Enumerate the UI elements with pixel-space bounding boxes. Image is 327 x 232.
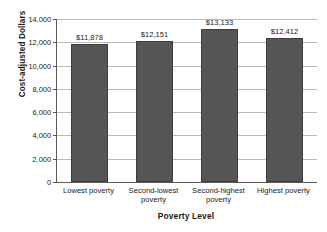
y-axis-tick-label: 12,000 — [28, 38, 51, 47]
x-axis-category-label: Second-lowest poverty — [121, 186, 186, 205]
bar-chart: Cost-adjusted Dollars 02,0004,0006,0008,… — [0, 0, 327, 232]
bar[interactable] — [266, 38, 302, 183]
y-axis-tick-label: 4,000 — [33, 131, 52, 140]
plot-area: 02,0004,0006,0008,00010,00012,00014,000 … — [56, 19, 317, 183]
y-axis-tick-label: 14,000 — [28, 15, 51, 24]
y-axis-tick-label: 2,000 — [33, 154, 52, 163]
bar[interactable] — [136, 41, 172, 182]
x-axis-category-label: Highest poverty — [251, 186, 316, 195]
bar-slot: $12,412 — [252, 19, 317, 182]
y-axis-tick-label: 6,000 — [33, 108, 52, 117]
x-axis-category-label: Second-highest poverty — [186, 186, 251, 205]
bar[interactable] — [71, 44, 107, 182]
y-axis-tick-label: 10,000 — [28, 61, 51, 70]
bar-value-label: $12,151 — [122, 30, 187, 39]
x-axis-tick-labels: Lowest povertySecond-lowest povertySecon… — [56, 186, 316, 210]
bar-value-label: $13,133 — [187, 18, 252, 27]
bar-slot: $11,878 — [57, 19, 122, 182]
bar-slot: $12,151 — [122, 19, 187, 182]
y-axis-tick-mark — [53, 182, 57, 183]
bar-value-label: $11,878 — [57, 33, 122, 42]
bar-value-label: $12,412 — [252, 27, 317, 36]
y-axis-tick-label: 0 — [47, 178, 51, 187]
bar[interactable] — [201, 29, 237, 182]
x-axis-title: Poverty Level — [56, 211, 316, 221]
gridline — [57, 182, 317, 183]
x-axis-category-label: Lowest poverty — [56, 186, 121, 195]
y-axis-tick-label: 8,000 — [33, 84, 52, 93]
bar-series: $11,878$12,151$13,133$12,412 — [57, 19, 317, 182]
bar-slot: $13,133 — [187, 19, 252, 182]
